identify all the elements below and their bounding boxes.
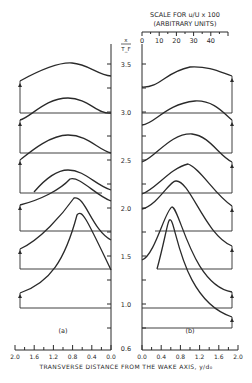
- scale-label-line2: (ARBITRARY UNITS): [154, 20, 217, 28]
- panel-a-label: (a): [58, 327, 67, 335]
- center-axis-label-num: x: [124, 37, 128, 43]
- panel-b-label: (b): [185, 327, 194, 335]
- center-tick-3.0: 3.0: [121, 109, 131, 117]
- panel-a-xtick: 0.0: [106, 353, 116, 360]
- scale-label-line1: SCALE FOR u/U x 100: [150, 11, 220, 19]
- center-tick-1.5: 1.5: [121, 253, 131, 261]
- x-axis-label: TRANSVERSE DISTANCE FROM THE WAKE AXIS, …: [38, 363, 212, 371]
- panel-b-xtick: 2.0: [233, 353, 243, 360]
- panel-a-curves: [20, 63, 111, 293]
- panel-b-xtick: 1.2: [195, 353, 205, 360]
- scale-tick-10: 10: [155, 37, 163, 45]
- panel-a-xtick: 2.0: [10, 353, 20, 360]
- wake-profile-chart: SCALE FOR u/U x 100 (ARBITRARY UNITS) 0 …: [0, 0, 252, 383]
- panel-a-baselines: [20, 81, 111, 308]
- center-tick-2.5: 2.5: [121, 157, 131, 165]
- center-tick-3.5: 3.5: [121, 61, 131, 69]
- center-axis-label-den: T_F: [120, 46, 130, 53]
- panel-b-baselines: [142, 76, 232, 328]
- center-tick-1.0: 1.0: [121, 301, 131, 309]
- center-tick-2.0: 2.0: [121, 205, 131, 213]
- panel-b-xtick: 0.4: [156, 353, 166, 360]
- scale-tick-20: 20: [172, 37, 180, 45]
- scale-ticks: [142, 32, 228, 36]
- scale-tick-0: 0: [140, 37, 144, 45]
- center-tick-0.6: 0.6: [121, 345, 131, 353]
- panel-b-arrow-icons: [230, 78, 234, 322]
- center-axis-ticks: [107, 64, 146, 328]
- scale-tick-30: 30: [189, 37, 197, 45]
- scale-tick-40: 40: [207, 37, 215, 45]
- panel-b-xtick: 0.8: [176, 353, 186, 360]
- panel-a-xtick: 1.2: [49, 353, 59, 360]
- panel-b-xtick: 0.0: [137, 353, 147, 360]
- panel-b-xtick: 1.6: [214, 353, 224, 360]
- panel-a-xtick: 0.4: [87, 353, 97, 360]
- panel-a-xtick: 0.8: [68, 353, 78, 360]
- panel-a-xtick: 1.6: [29, 353, 39, 360]
- panel-b-curves: [142, 67, 232, 317]
